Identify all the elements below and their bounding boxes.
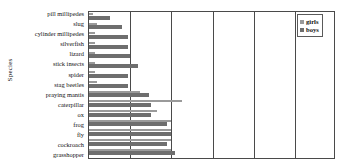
legend-swatch-icon — [300, 28, 304, 32]
bar-group — [89, 110, 334, 118]
bar-boys — [89, 142, 167, 146]
bar-boys — [89, 74, 128, 78]
y-axis-title: Species — [6, 50, 14, 90]
bar-group — [89, 91, 334, 99]
category-label: cockroach — [14, 142, 86, 149]
bar-group — [89, 81, 334, 89]
bar-group — [89, 120, 334, 128]
bar-boys — [89, 132, 171, 136]
bar-group — [89, 71, 334, 79]
bar-group — [89, 149, 334, 157]
legend-label: girls — [306, 18, 318, 25]
bar-boys — [89, 45, 128, 49]
bar-boys — [89, 93, 149, 97]
legend: girlsboys — [297, 14, 323, 37]
bar-group — [89, 42, 334, 50]
category-label: cylinder millipedes — [14, 31, 86, 38]
legend-item[interactable]: boys — [300, 26, 319, 33]
category-label: silverfish — [14, 41, 86, 48]
category-label: pill millipedes — [14, 11, 86, 18]
legend-swatch-icon — [300, 20, 304, 24]
bar-boys — [89, 84, 128, 88]
category-label: stick insects — [14, 61, 86, 68]
bar-group — [89, 52, 334, 60]
bar-boys — [89, 122, 167, 126]
bar-boys — [89, 25, 122, 29]
bar-boys — [89, 151, 175, 155]
category-label: ox — [14, 112, 86, 119]
bar-boys — [89, 113, 151, 117]
bar-boys — [89, 16, 110, 20]
chart-container: Species pill millipedesslugcylinder mill… — [0, 0, 340, 168]
bar-boys — [89, 35, 128, 39]
category-label: fly — [14, 132, 86, 139]
bar-boys — [89, 54, 130, 58]
bar-boys — [89, 103, 151, 107]
category-label: frog — [14, 122, 86, 129]
legend-item[interactable]: girls — [300, 18, 319, 25]
category-label: grasshopper — [14, 152, 86, 159]
category-label: lizard — [14, 51, 86, 58]
category-label: slug — [14, 21, 86, 28]
bar-group — [89, 129, 334, 137]
bar-group — [89, 139, 334, 147]
bar-group — [89, 62, 334, 70]
bar-boys — [89, 64, 138, 68]
category-label: spider — [14, 72, 86, 79]
category-label: caterpillar — [14, 102, 86, 109]
legend-label: boys — [306, 26, 319, 33]
bar-group — [89, 100, 334, 108]
category-label: praying mantis — [14, 92, 86, 99]
category-label: stag beetles — [14, 82, 86, 89]
category-axis-labels: pill millipedesslugcylinder millipedessi… — [14, 11, 86, 159]
